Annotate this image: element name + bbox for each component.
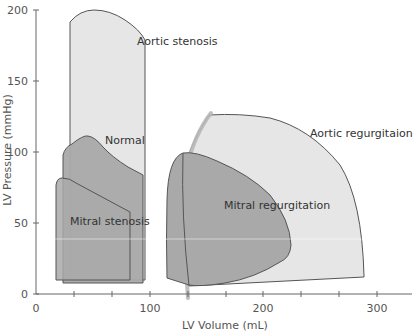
x-tick-label-300: 300 xyxy=(367,302,388,315)
x-axis-title: LV Volume (mL) xyxy=(182,319,268,332)
label-mitral-stenosis: Mitral stenosis xyxy=(70,215,150,228)
pv-loop-chart: 200 150 100 50 0 0 100 200 300 LV Volume… xyxy=(0,0,414,334)
label-normal: Normal xyxy=(105,134,145,147)
x-tick-label-200: 200 xyxy=(253,302,274,315)
label-aortic-regurgitation: Aortic regurgitaion xyxy=(310,127,413,140)
y-tick-label-50: 50 xyxy=(14,217,28,230)
y-tick-label-0: 0 xyxy=(21,288,28,301)
y-tick-label-150: 150 xyxy=(7,75,28,88)
y-tick-label-200: 200 xyxy=(7,4,28,17)
label-mitral-regurgitation: Mitral regurgitation xyxy=(224,199,330,212)
label-aortic-stenosis: Aortic stenosis xyxy=(137,35,218,48)
x-tick-label-0: 0 xyxy=(33,302,40,315)
x-tick-label-100: 100 xyxy=(140,302,161,315)
y-axis-title: LV Pressure (mmHg) xyxy=(1,94,14,206)
